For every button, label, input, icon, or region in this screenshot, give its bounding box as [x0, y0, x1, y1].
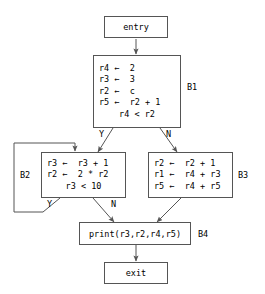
b1-block-label: B1 — [187, 82, 197, 92]
node-entry[interactable]: entry — [104, 16, 168, 38]
edge-b3-to-b4 — [157, 198, 181, 222]
node-b1[interactable]: r4 ← 2 r3 ← 3 r2 ← c r5 ← r2 + 1 r4 < r2 — [93, 55, 181, 128]
b1-condition: r4 < r2 — [94, 109, 180, 120]
b2-block-label: B2 — [20, 170, 30, 180]
node-b3[interactable]: r2 ← r2 + 1 r1 ← r4 + r3 r5 ← r4 + r5 — [148, 152, 233, 198]
b3-statement-0: r2 ← r2 + 1 — [149, 158, 232, 169]
b2-condition: r3 < 10 — [42, 181, 125, 192]
edge-label-b2-no: N — [111, 199, 116, 209]
node-exit[interactable]: exit — [104, 262, 168, 284]
b4-statement: print(r3,r2,r4,r5) — [89, 229, 181, 239]
b2-statement-0: r3 ← r3 + 1 — [42, 158, 125, 169]
graph-edges-layer — [0, 0, 265, 294]
b1-statement-2: r2 ← c — [94, 86, 180, 97]
control-flow-graph: entry r4 ← 2 r3 ← 3 r2 ← c r5 ← r2 + 1 r… — [0, 0, 265, 294]
b1-statement-1: r3 ← 3 — [94, 74, 180, 85]
b3-statement-1: r1 ← r4 + r3 — [149, 169, 232, 180]
node-exit-label: exit — [126, 268, 146, 278]
node-b4[interactable]: print(r3,r2,r4,r5) — [79, 222, 191, 245]
b1-statement-3: r5 ← r2 + 1 — [94, 97, 180, 108]
edge-label-b1-no: N — [166, 129, 171, 139]
node-b2[interactable]: r3 ← r3 + 1 r2 ← 2 * r2 r3 < 10 — [41, 152, 126, 198]
b4-block-label: B4 — [198, 229, 208, 239]
b1-statement-0: r4 ← 2 — [94, 63, 180, 74]
node-entry-label: entry — [123, 22, 149, 32]
b3-statement-2: r5 ← r4 + r5 — [149, 181, 232, 192]
b2-statement-1: r2 ← 2 * r2 — [42, 169, 125, 180]
edge-label-b1-yes: Y — [99, 129, 104, 139]
edge-label-b2-yes: Y — [47, 199, 52, 209]
b3-block-label: B3 — [238, 170, 248, 180]
